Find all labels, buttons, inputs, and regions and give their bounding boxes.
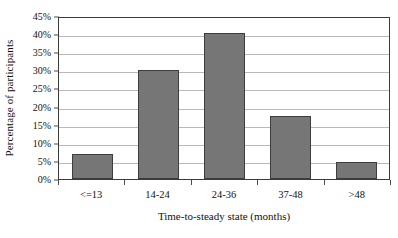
y-axis-tick-label: 25% xyxy=(33,84,51,94)
x-axis-category-label: 14-24 xyxy=(124,187,190,203)
x-axis-tick-mark xyxy=(257,180,258,185)
y-axis-title-text: Percentage of participants xyxy=(3,40,15,157)
x-axis-category-label: <=13 xyxy=(58,187,124,203)
y-axis-tick-label: 30% xyxy=(33,66,51,76)
y-axis-tick-label: 20% xyxy=(33,103,51,113)
bar-slot xyxy=(257,18,323,179)
y-axis-tick-label: 5% xyxy=(38,157,51,167)
x-axis-tick-marks xyxy=(58,180,390,185)
y-axis-tick-label: 35% xyxy=(33,48,51,58)
x-axis-tick-mark xyxy=(58,180,59,185)
bar-chart-figure: Percentage of participants 0%5%10%15%20%… xyxy=(0,0,398,238)
bar[interactable] xyxy=(336,162,377,179)
y-axis-tick-label: 40% xyxy=(33,30,51,40)
bar[interactable] xyxy=(270,116,311,179)
x-axis-tick-mark xyxy=(191,180,192,185)
bar-slot xyxy=(191,18,257,179)
y-axis-tick-label: 45% xyxy=(33,12,51,22)
y-axis-tick-labels: 0%5%10%15%20%25%30%35%40%45% xyxy=(18,17,54,180)
x-axis-tick-mark xyxy=(124,180,125,185)
bars-layer xyxy=(59,18,389,179)
x-axis-title: Time-to-steady state (months) xyxy=(58,210,390,222)
x-axis-category-label: 24-36 xyxy=(191,187,257,203)
x-axis-tick-mark xyxy=(324,180,325,185)
x-axis-category-label: 37-48 xyxy=(257,187,323,203)
bar-slot xyxy=(125,18,191,179)
y-axis-title: Percentage of participants xyxy=(0,0,18,196)
bar[interactable] xyxy=(138,70,179,179)
bar-slot xyxy=(59,18,125,179)
y-axis-tick-label: 10% xyxy=(33,139,51,149)
plot-area xyxy=(58,17,390,180)
bar[interactable] xyxy=(72,154,113,179)
x-axis-tick-mark xyxy=(390,180,391,185)
x-axis-category-label: >48 xyxy=(324,187,390,203)
x-axis-tick-labels: <=1314-2424-3637-48>48 xyxy=(58,187,390,203)
bar[interactable] xyxy=(204,33,245,179)
y-axis-tick-label: 0% xyxy=(38,175,51,185)
y-axis-tick-label: 15% xyxy=(33,121,51,131)
bar-slot xyxy=(323,18,389,179)
